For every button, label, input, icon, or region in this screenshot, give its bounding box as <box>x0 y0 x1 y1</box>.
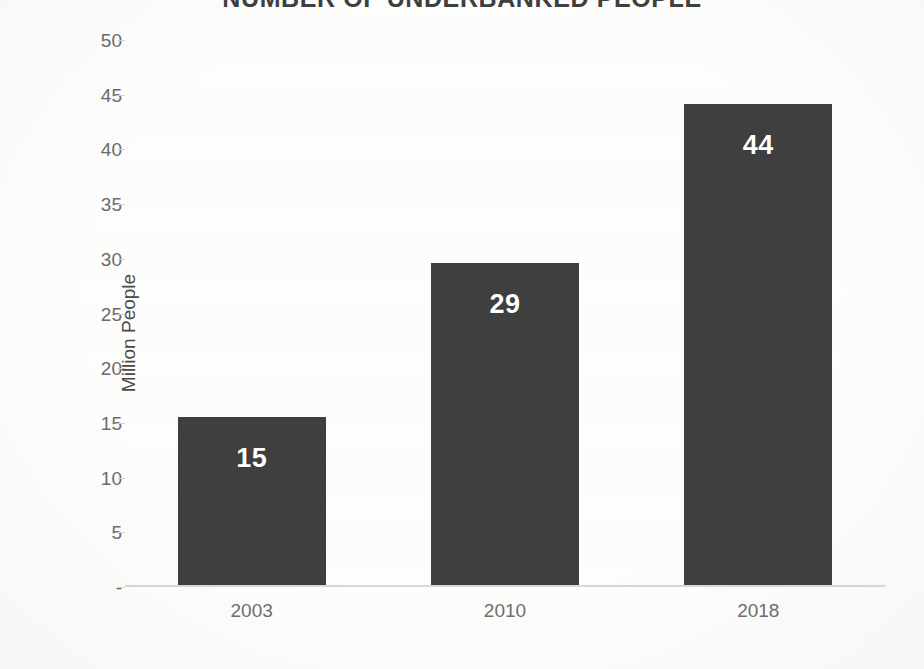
y-axis-tick-mark <box>118 532 125 533</box>
y-axis-tick-label: 10 <box>62 468 122 487</box>
chart-screenshot: NUMBER OF UNDERBANKED PEOPLE Million Peo… <box>0 0 924 669</box>
x-axis-category-label: 2010 <box>378 600 631 622</box>
x-axis-category-label: 2003 <box>125 600 378 622</box>
y-axis-tick-mark <box>118 478 125 479</box>
y-axis-tick-mark <box>118 40 125 41</box>
y-axis-tick-label: - <box>62 578 122 597</box>
bar-value-label: 29 <box>489 289 520 320</box>
y-axis-tick-label: 50 <box>62 31 122 50</box>
y-axis-tick-label: 20 <box>62 359 122 378</box>
x-axis-line <box>125 585 885 587</box>
y-axis-tick-label: 40 <box>62 140 122 159</box>
y-axis-tick-mark <box>118 259 125 260</box>
y-axis-tick-label: 25 <box>62 304 122 323</box>
bar[interactable]: 15 <box>178 417 326 585</box>
plot-area: Million People -5101520253035404550 1529… <box>125 40 885 587</box>
bar-slot: 15 <box>125 40 378 585</box>
y-axis-tick-mark <box>118 95 125 96</box>
y-axis-tick-label: 15 <box>62 413 122 432</box>
bar-slot: 44 <box>632 40 885 585</box>
bar-value-label: 44 <box>743 130 774 161</box>
y-axis-tick-mark <box>118 423 125 424</box>
y-axis-tick-mark <box>118 587 125 588</box>
bar[interactable]: 29 <box>431 263 579 585</box>
x-axis-category-label: 2018 <box>632 600 885 622</box>
bar-series: 152944 <box>125 40 885 585</box>
bar-value-label: 15 <box>236 443 267 474</box>
y-axis-tick-label: 35 <box>62 195 122 214</box>
y-axis-tick-mark <box>118 314 125 315</box>
y-axis-tick-mark <box>118 368 125 369</box>
bar[interactable]: 44 <box>684 104 832 585</box>
bar-slot: 29 <box>378 40 631 585</box>
y-axis-tick-label: 45 <box>62 85 122 104</box>
chart-title: NUMBER OF UNDERBANKED PEOPLE <box>0 0 924 13</box>
y-axis-tick-mark <box>118 204 125 205</box>
x-axis-category-group: 200320102018 <box>125 600 885 630</box>
y-axis-tick-label: 5 <box>62 523 122 542</box>
y-axis-tick-label: 30 <box>62 249 122 268</box>
y-axis-tick-mark <box>118 149 125 150</box>
